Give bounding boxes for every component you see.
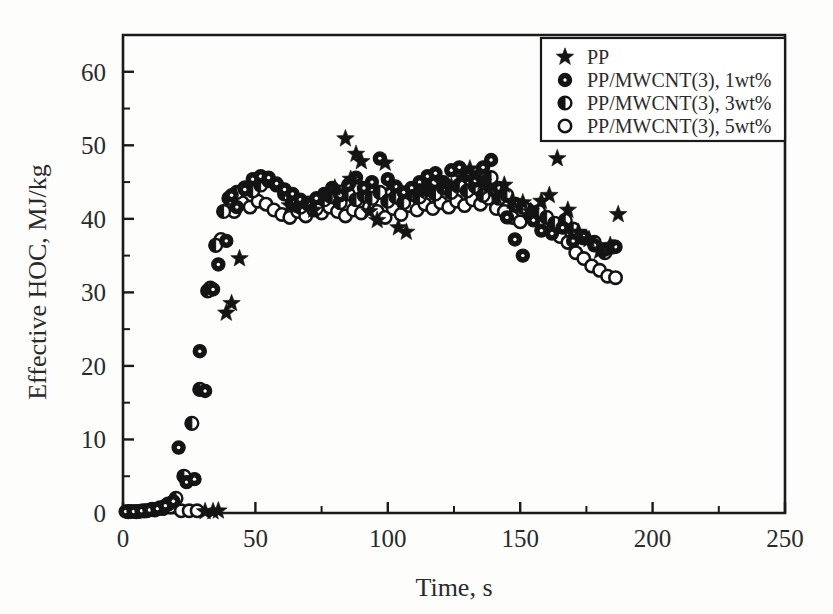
point-7-center (177, 446, 180, 449)
point-51-center (513, 238, 516, 241)
x-tick-label-200: 200 (634, 525, 672, 552)
point-23-center (291, 192, 294, 195)
point-20-center (267, 176, 270, 179)
legend-marker-1-center (563, 78, 566, 81)
x-axis-title: Time, s (415, 573, 492, 602)
y-tick-label-60: 60 (81, 59, 106, 86)
point-12-center (211, 288, 214, 291)
y-tick-label-10: 10 (81, 426, 106, 453)
point-50-center (505, 216, 508, 219)
x-tick-label-150: 150 (501, 525, 539, 552)
point-10-center (198, 350, 201, 353)
legend-label-0: PP (587, 46, 609, 68)
point-37 (549, 149, 567, 166)
chart-legend: PPPP/MWCNT(3), 1wt%PP/MWCNT(3), 3wt%PP/M… (541, 38, 785, 141)
point-5 (231, 249, 249, 266)
y-tick-label-20: 20 (81, 353, 106, 380)
point-47-center (481, 166, 484, 169)
point-11-center (203, 389, 206, 392)
effective-hoc-scatter-chart: 050100150200250 0102030405060 PPPP/MWCNT… (0, 0, 833, 614)
series-pp-mwcnt-3-3wt- (122, 171, 619, 518)
y-axis-ticks (123, 72, 134, 513)
point-5-center (164, 504, 167, 507)
point-21-center (275, 182, 278, 185)
point-53-center (532, 219, 535, 222)
x-tick-label-250: 250 (766, 525, 804, 552)
point-17-center (243, 188, 246, 191)
point-13-center (217, 263, 220, 266)
point-56-center (561, 226, 564, 229)
point-44-center (458, 166, 461, 169)
point-22-center (283, 188, 286, 191)
point-14-center (225, 239, 228, 242)
point-59 (609, 271, 621, 283)
x-tick-label-0: 0 (117, 525, 130, 552)
point-9-center (193, 477, 196, 480)
point-41-center (434, 172, 437, 175)
point-16-center (235, 205, 238, 208)
point-26-center (315, 197, 318, 200)
data-point-layer (119, 129, 627, 518)
point-6-center (172, 500, 175, 503)
point-11 (337, 129, 355, 146)
x-tick-label-50: 50 (243, 525, 268, 552)
y-axis-title: Effective HOC, MJ/kg (23, 164, 52, 400)
y-tick-label-30: 30 (81, 279, 106, 306)
point-32-center (362, 186, 365, 189)
legend-marker-3 (559, 120, 571, 132)
x-axis-tick-labels: 050100150200250 (117, 525, 804, 552)
x-tick-label-100: 100 (369, 525, 407, 552)
point-48-center (489, 158, 492, 161)
point-37-center (402, 191, 405, 194)
y-tick-label-40: 40 (81, 206, 106, 233)
point-55-center (550, 232, 553, 235)
point-15-center (230, 194, 233, 197)
y-axis-tick-labels: 0102030405060 (81, 59, 106, 527)
point-54-center (540, 229, 543, 232)
y-tick-label-50: 50 (81, 132, 106, 159)
chart-page: 050100150200250 0102030405060 PPPP/MWCNT… (0, 0, 833, 614)
point-33-center (370, 180, 373, 183)
legend-label-3: PP/MWCNT(3), 5wt% (587, 115, 771, 138)
point-43 (609, 205, 627, 222)
legend-label-1: PP/MWCNT(3), 1wt% (587, 69, 771, 92)
legend-label-2: PP/MWCNT(3), 3wt% (587, 92, 771, 115)
y-tick-label-0: 0 (94, 500, 107, 527)
point-52-center (521, 254, 524, 257)
